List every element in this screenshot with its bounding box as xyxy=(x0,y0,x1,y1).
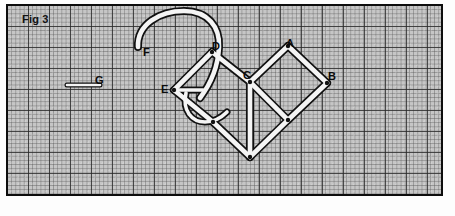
graph-paper-grid xyxy=(8,6,441,194)
figure-caption: Fig 3 xyxy=(22,14,49,25)
figure-3-diagram: Fig 3 xyxy=(0,0,455,216)
vertex-label-b: B xyxy=(328,71,336,82)
vertex-label-a: A xyxy=(286,38,294,49)
vertex-label-d: D xyxy=(212,41,220,52)
vertex-label-g: G xyxy=(95,75,104,86)
vertex-label-f: F xyxy=(143,47,150,58)
graph-paper-frame: Fig 3 xyxy=(6,4,443,196)
vertex-label-e: E xyxy=(161,84,168,95)
vertex-label-c: C xyxy=(243,70,251,81)
